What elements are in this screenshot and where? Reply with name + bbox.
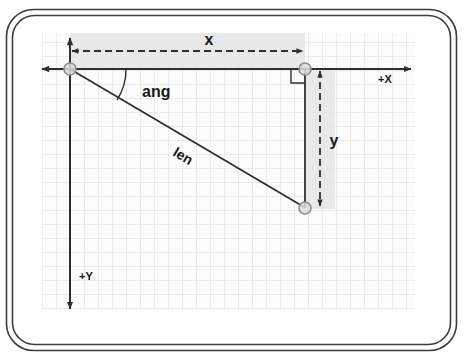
vector-decomposition-diagram: x y ang len +X +Y xyxy=(0,0,464,359)
grid-area xyxy=(42,33,415,310)
x-dimension-label: x xyxy=(205,31,214,48)
angle-label: ang xyxy=(142,83,170,100)
endpoint-marker xyxy=(299,202,311,214)
diagram-canvas: x y ang len +X +Y xyxy=(0,0,464,359)
origin-marker xyxy=(64,63,76,75)
y-dimension-label: y xyxy=(330,132,339,149)
plus-y-axis-label: +Y xyxy=(79,270,93,282)
plus-x-axis-label: +X xyxy=(378,73,392,85)
corner-marker xyxy=(299,63,311,75)
